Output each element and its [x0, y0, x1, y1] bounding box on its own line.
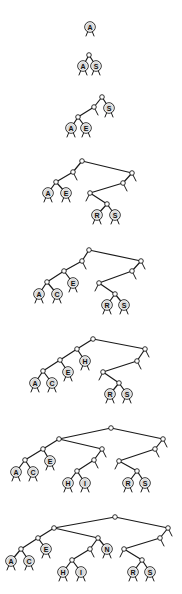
leaf-label: C [30, 469, 35, 476]
tree-edge [99, 271, 132, 283]
internal-node [161, 437, 166, 442]
leaf-label: E [44, 546, 49, 553]
leaf-node: E [45, 456, 56, 467]
leaf-node: I [80, 478, 91, 489]
tree-5: ACERS [34, 248, 145, 314]
leaf-label: A [87, 24, 92, 31]
leaf-label: A [45, 190, 50, 197]
leaf-node: C [28, 467, 39, 478]
tree-4: AERS [43, 159, 136, 224]
tree-edge [115, 517, 168, 528]
internal-node [70, 558, 75, 563]
internal-node [113, 292, 118, 297]
tree-edge [90, 193, 107, 204]
leaf-node: A [34, 289, 45, 300]
tree-edge [43, 360, 60, 371]
internal-node [96, 536, 101, 541]
internal-node [41, 447, 46, 452]
internal-node [88, 547, 93, 552]
leaf-node: S [110, 210, 121, 221]
leaf-node: A [43, 188, 54, 199]
internal-node [92, 105, 97, 110]
leaf-node: E [41, 544, 52, 555]
leaf-label: A [8, 558, 13, 565]
leaf-label: S [143, 480, 148, 487]
tree-edge [25, 449, 43, 460]
leaf-label: H [65, 480, 70, 487]
tree-2: AS [78, 53, 102, 75]
leaf-label: S [148, 569, 153, 576]
tree-edge [78, 107, 94, 117]
internal-node [75, 347, 80, 352]
internal-node [117, 459, 122, 464]
leaf-label: R [107, 391, 112, 398]
leaf-node: S [119, 300, 130, 311]
leaf-label: R [94, 212, 99, 219]
leaf-node: C [47, 378, 58, 389]
leaf-label: S [107, 105, 112, 112]
leaf-node: C [24, 556, 35, 567]
tree-edge [103, 361, 137, 372]
tree-edge [43, 439, 59, 449]
internal-node [113, 515, 118, 520]
leaf-label: E [64, 190, 69, 197]
leaf-node: I [76, 567, 87, 578]
leaf-node: N [102, 544, 113, 555]
leaf-label: E [66, 369, 71, 376]
internal-node [153, 447, 158, 452]
internal-node [139, 259, 144, 264]
internal-node [130, 171, 135, 176]
leaf-node: R [92, 210, 103, 221]
tree-edge [54, 517, 115, 528]
internal-node [58, 358, 63, 363]
leaf-label: C [49, 380, 54, 387]
internal-node [23, 458, 28, 463]
leaf-label: N [104, 546, 109, 553]
leaf-node: E [81, 123, 92, 134]
leaf-node: R [123, 478, 134, 489]
internal-node [62, 269, 67, 274]
leaf-label: A [13, 469, 18, 476]
tree-edge [60, 349, 77, 360]
internal-node [166, 526, 171, 531]
tree-edge [89, 250, 141, 261]
leaf-node: S [104, 103, 115, 114]
leaf-label: S [122, 302, 127, 309]
leaf-node: S [122, 389, 133, 400]
leaf-node: A [30, 378, 41, 389]
tree-edge [59, 428, 111, 439]
leaf-node: E [61, 188, 72, 199]
leaf-label: R [104, 302, 109, 309]
leaf-label: A [80, 63, 85, 70]
internal-node [100, 95, 105, 100]
tree-8: ACENHIRS [6, 515, 172, 581]
tree-1: A [85, 22, 96, 36]
tree-edge [119, 461, 137, 471]
internal-node [54, 180, 59, 185]
internal-node [117, 381, 122, 386]
tree-edge [21, 538, 38, 549]
tree-edge [119, 449, 155, 461]
leaf-node: A [85, 22, 96, 33]
tree-edge [90, 183, 123, 193]
leaf-node: A [78, 61, 89, 72]
leaf-node: A [6, 556, 17, 567]
internal-node [158, 536, 163, 541]
tree-edge [111, 428, 163, 439]
leaf-label: H [82, 358, 87, 365]
internal-node [122, 547, 127, 552]
internal-node [76, 115, 81, 120]
tree-edge [99, 283, 115, 294]
leaf-node: E [68, 278, 79, 289]
tree-edge [77, 460, 94, 471]
internal-node [135, 359, 140, 364]
tree-edge [82, 161, 132, 173]
leaf-node: A [11, 467, 22, 478]
tree-edge [38, 528, 54, 538]
tree-edge [72, 549, 90, 560]
tree-edge [54, 528, 98, 538]
internal-node [109, 426, 114, 431]
leaf-node: R [128, 567, 139, 578]
leaf-label: A [32, 380, 37, 387]
trie-diagram: AASSAEAERSACERSHEACRSACEHIRSACENHIRS [0, 0, 182, 594]
